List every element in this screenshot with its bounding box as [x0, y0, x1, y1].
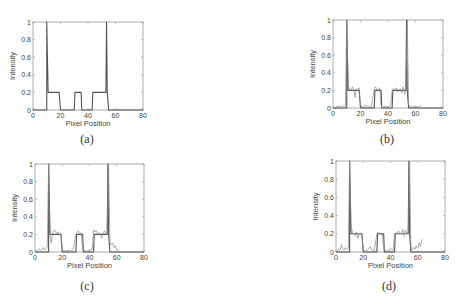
x-tick-label: 80: [441, 254, 449, 261]
axes-frame: [336, 161, 445, 252]
x-tick-label: 20: [57, 112, 65, 119]
chart-a: 02040608000.20.40.60.81Pixel PositionInt…: [0, 0, 170, 150]
x-axis-label: Pixel Position: [365, 117, 410, 126]
ideal-profile-line: [35, 164, 144, 252]
x-tick-label: 80: [439, 110, 447, 117]
x-tick-label: 40: [86, 254, 94, 261]
subplot-a: 02040608000.20.40.60.81Pixel PositionInt…: [0, 0, 170, 150]
x-axis-label: Pixel Position: [368, 261, 413, 270]
y-tick-label: 0.4: [21, 71, 31, 78]
y-tick-label: 0.8: [324, 176, 334, 183]
caption-a: (a): [67, 132, 107, 147]
y-tick-label: 0: [327, 105, 331, 112]
subplot-b: 02040608000.20.40.60.81Pixel PositionInt…: [290, 0, 464, 150]
subplot-d: 02040608000.20.40.60.81Pixel PositionInt…: [290, 150, 464, 304]
caption-c: (c): [67, 279, 107, 294]
ideal-profile-line: [333, 20, 443, 108]
y-tick-label: 0: [29, 249, 33, 256]
x-tick-label: 60: [412, 110, 420, 117]
y-tick-label: 0.8: [21, 36, 31, 43]
axes-frame: [33, 22, 143, 110]
y-tick-label: 0.2: [324, 230, 334, 237]
y-tick-label: 1: [327, 17, 331, 24]
y-tick-label: 1: [29, 161, 33, 168]
y-tick-label: 1: [330, 158, 334, 165]
x-tick-label: 60: [112, 112, 120, 119]
y-tick-label: 0.8: [321, 34, 331, 41]
y-tick-label: 1: [27, 19, 31, 26]
x-tick-label: 60: [414, 254, 422, 261]
x-tick-label: 40: [84, 112, 92, 119]
y-tick-label: 0.6: [324, 194, 334, 201]
x-tick-label: 20: [357, 110, 365, 117]
y-tick-label: 0: [330, 249, 334, 256]
y-tick-label: 0.4: [23, 213, 33, 220]
y-axis-label: Intensity: [8, 52, 17, 80]
x-axis-label: Pixel Position: [67, 261, 112, 270]
x-tick-label: 0: [331, 110, 335, 117]
y-tick-label: 0.6: [23, 196, 33, 203]
y-tick-label: 0.6: [321, 52, 331, 59]
reconstruction-line: [35, 164, 119, 252]
axes-frame: [333, 20, 443, 108]
x-tick-label: 0: [31, 112, 35, 119]
y-tick-label: 0: [27, 107, 31, 114]
x-tick-label: 40: [387, 254, 395, 261]
y-tick-label: 0.4: [321, 69, 331, 76]
chart-b: 02040608000.20.40.60.81Pixel PositionInt…: [290, 0, 464, 150]
x-tick-label: 40: [384, 110, 392, 117]
x-tick-label: 0: [334, 254, 338, 261]
caption-b: (b): [367, 132, 407, 147]
y-axis-label: Intensity: [10, 194, 19, 222]
y-tick-label: 0.2: [321, 87, 331, 94]
axes-frame: [35, 164, 144, 252]
y-axis-label: Intensity: [311, 192, 320, 220]
x-axis-label: Pixel Position: [65, 119, 110, 128]
x-tick-label: 60: [113, 254, 121, 261]
x-tick-label: 20: [359, 254, 367, 261]
x-tick-label: 80: [139, 112, 147, 119]
y-tick-label: 0.2: [21, 89, 31, 96]
x-tick-label: 20: [58, 254, 66, 261]
y-axis-label: Intensity: [308, 50, 317, 78]
caption-d: (d): [369, 279, 409, 294]
subplot-c: 02040608000.20.40.60.81Pixel PositionInt…: [0, 150, 170, 304]
y-tick-label: 0.2: [23, 231, 33, 238]
y-tick-label: 0.4: [324, 212, 334, 219]
x-tick-label: 0: [33, 254, 37, 261]
ideal-profile-line: [336, 161, 445, 252]
y-tick-label: 0.8: [23, 178, 33, 185]
ideal-profile-line: [33, 22, 143, 110]
x-tick-label: 80: [140, 254, 148, 261]
y-tick-label: 0.6: [21, 54, 31, 61]
